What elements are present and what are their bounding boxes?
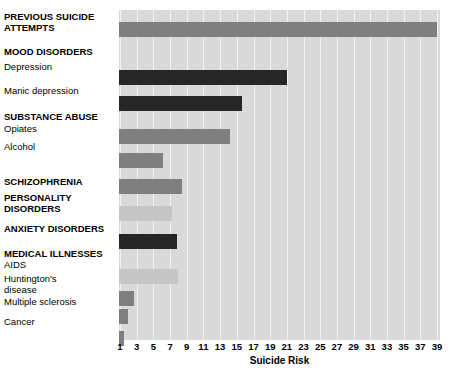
gridline: [237, 10, 238, 340]
gridline: [370, 10, 371, 340]
x-tick-label: 29: [348, 341, 359, 352]
category-label: Huntington's disease: [4, 274, 57, 295]
bar: [119, 291, 134, 306]
bar: [119, 269, 178, 284]
x-tick-label: 13: [215, 341, 226, 352]
bar: [119, 179, 182, 194]
gridline: [203, 10, 204, 340]
category-label: SCHIZOPHRENIA: [4, 177, 83, 188]
category-label: PERSONALITY DISORDERS: [4, 193, 72, 214]
x-tick-label: 1: [117, 341, 122, 352]
gridline: [270, 10, 271, 340]
x-tick-label: 9: [184, 341, 189, 352]
x-tick-label: 35: [398, 341, 409, 352]
category-label: Multiple sclerosis: [4, 297, 76, 308]
x-tick-label: 33: [382, 341, 393, 352]
x-tick-label: 7: [167, 341, 172, 352]
plot-area: [119, 10, 440, 340]
gridline: [220, 10, 221, 340]
category-label: Manic depression: [4, 86, 78, 97]
x-tick-label: 31: [365, 341, 376, 352]
gridlines: [119, 10, 440, 340]
x-tick-label: 21: [282, 341, 293, 352]
bar: [119, 206, 172, 221]
bar: [119, 96, 242, 111]
bar: [119, 234, 177, 249]
category-label: ANXIETY DISORDERS: [4, 224, 104, 235]
category-label-column: PREVIOUS SUICIDE ATTEMPTSMOOD DISORDERSD…: [0, 0, 119, 370]
category-label: Opiates: [4, 124, 37, 135]
gridline: [153, 10, 154, 340]
bar: [119, 129, 230, 144]
x-tick-label: 27: [332, 341, 343, 352]
x-axis-ticks: 13579111315171921232527293133353739: [119, 341, 440, 355]
category-label: MEDICAL ILLNESSES: [4, 249, 103, 260]
category-label: Cancer: [4, 317, 35, 328]
gridline: [404, 10, 405, 340]
x-tick-label: 17: [248, 341, 259, 352]
x-tick-label: 11: [198, 341, 208, 352]
gridline: [320, 10, 321, 340]
gridline: [437, 10, 438, 340]
bar: [119, 22, 437, 37]
category-label: PREVIOUS SUICIDE ATTEMPTS: [4, 12, 94, 33]
x-tick-label: 5: [151, 341, 156, 352]
x-tick-label: 39: [432, 341, 443, 352]
category-label: Depression: [4, 62, 52, 73]
gridline: [420, 10, 421, 340]
category-label: MOOD DISORDERS: [4, 47, 93, 58]
chart-figure: PREVIOUS SUICIDE ATTEMPTSMOOD DISORDERSD…: [0, 0, 452, 370]
bar: [119, 70, 287, 85]
gridline: [137, 10, 138, 340]
x-tick-label: 37: [415, 341, 426, 352]
x-tick-label: 15: [232, 341, 243, 352]
category-label: Alcohol: [4, 142, 35, 153]
gridline: [254, 10, 255, 340]
gridline: [304, 10, 305, 340]
gridline: [354, 10, 355, 340]
gridline: [387, 10, 388, 340]
category-label: AIDS: [4, 260, 26, 271]
x-tick-label: 25: [315, 341, 326, 352]
gridline: [287, 10, 288, 340]
bar: [119, 309, 128, 324]
x-axis-title: Suicide Risk: [119, 355, 440, 366]
x-tick-label: 23: [298, 341, 309, 352]
x-tick-label: 3: [134, 341, 139, 352]
bar: [119, 153, 163, 168]
category-label: SUBSTANCE ABUSE: [4, 112, 98, 123]
gridline: [187, 10, 188, 340]
gridline: [337, 10, 338, 340]
gridline: [170, 10, 171, 340]
x-tick-label: 19: [265, 341, 276, 352]
